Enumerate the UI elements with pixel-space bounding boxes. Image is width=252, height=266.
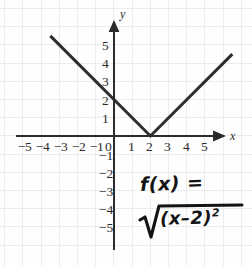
x-tick-5: 5: [201, 140, 208, 154]
y-axis-label: y: [120, 8, 125, 20]
y-tick-1: 1: [102, 112, 109, 126]
handwritten-function-annotation: f(x) = (x–2)2: [138, 172, 248, 260]
x-tick-4: 4: [183, 140, 190, 154]
y-tick-neg5: −5: [99, 221, 113, 235]
x-axis-label: x: [230, 130, 235, 142]
absolute-value-curve: [50, 36, 232, 136]
x-tick-2: 2: [146, 140, 153, 154]
y-tick-neg4: −4: [99, 203, 113, 217]
x-tick-3: 3: [164, 140, 171, 154]
y-tick-neg3: −3: [99, 185, 113, 199]
y-tick-2: 2: [102, 94, 109, 108]
x-tick-neg4: −4: [36, 140, 49, 154]
radicand-exponent: 2: [212, 206, 220, 219]
x-tick-neg5: −5: [18, 140, 31, 154]
y-tick-5: 5: [102, 39, 109, 53]
handwritten-fx-equals: f(x) =: [140, 173, 204, 194]
handwritten-radicand: (x–2)2: [160, 207, 221, 228]
y-tick-neg2: −2: [99, 167, 113, 181]
x-axis-arrowhead: [213, 131, 226, 142]
y-axis-arrowhead: [109, 20, 120, 32]
x-tick-1: 1: [128, 140, 135, 154]
y-tick-3: 3: [102, 75, 109, 89]
y-tick-4: 4: [102, 57, 109, 71]
radicand-base: (x–2): [160, 206, 213, 228]
graph-canvas: −5 −4 −3 −2 −1 0 1 2 3 4 5 5 4 3 2 1 −1 …: [0, 0, 252, 266]
y-tick-neg1: −1: [99, 149, 113, 163]
x-tick-neg2: −2: [72, 140, 85, 154]
x-tick-neg3: −3: [54, 140, 67, 154]
